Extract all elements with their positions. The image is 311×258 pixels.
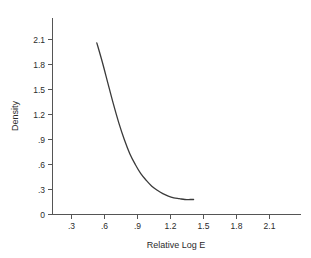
x-tick-label-0: .3 <box>68 221 75 231</box>
y-tick-label-1: .3 <box>38 185 45 195</box>
density-vs-relative-log-e-chart: 0 .3 .6 .9 1.2 1.5 1.8 2.1 .3 .6 .9 1.2 … <box>0 0 311 258</box>
x-tick-label-1: .6 <box>101 221 108 231</box>
x-tick-label-2: .9 <box>134 221 141 231</box>
x-tick-label-5: 1.8 <box>231 221 243 231</box>
y-tick-label-7: 2.1 <box>33 35 45 45</box>
y-tick-label-5: 1.5 <box>33 85 45 95</box>
chart-figure: 0 .3 .6 .9 1.2 1.5 1.8 2.1 .3 .6 .9 1.2 … <box>0 0 311 258</box>
x-tick-label-3: 1.2 <box>165 221 177 231</box>
y-tick-label-4: 1.2 <box>33 110 45 120</box>
y-tick-label-0: 0 <box>40 210 45 220</box>
x-tick-label-6: 2.1 <box>264 221 276 231</box>
y-tick-label-3: .9 <box>38 135 45 145</box>
y-tick-label-2: .6 <box>38 160 45 170</box>
x-tick-label-4: 1.5 <box>198 221 210 231</box>
x-axis-title: Relative Log E <box>147 240 206 250</box>
y-axis-title: Density <box>10 100 20 131</box>
y-tick-label-6: 1.8 <box>33 60 45 70</box>
chart-background <box>0 0 311 258</box>
